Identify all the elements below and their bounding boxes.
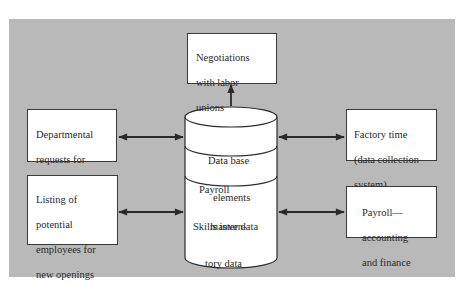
node-text-line: new openings bbox=[36, 269, 111, 281]
db-section-skills-wage: Skills inven- tory data Wage and salary … bbox=[193, 197, 262, 286]
node-factory-time: Factory time (data collection system) bbox=[346, 109, 437, 161]
node-text-line: requests for bbox=[36, 154, 110, 166]
node-text-line: potential bbox=[36, 219, 111, 231]
node-text-line: unions bbox=[196, 102, 270, 114]
db-text-line: tory data bbox=[193, 258, 262, 270]
node-text-line: Departmental bbox=[36, 129, 110, 141]
node-text-line: Factory time bbox=[354, 129, 430, 141]
node-text-line: Negotiations bbox=[196, 52, 270, 64]
node-text-line: employees for bbox=[36, 244, 111, 256]
node-text-line: and finance bbox=[362, 257, 430, 269]
node-departmental-requests: Departmental requests for new employees bbox=[27, 109, 117, 162]
db-text-line: Skills inven- bbox=[193, 221, 262, 233]
node-payroll-accounting: Payroll— accounting and finance bbox=[346, 186, 437, 238]
node-labor-negotiations: Negotiations with labor unions bbox=[187, 33, 277, 84]
node-text-line: Payroll— bbox=[362, 207, 430, 219]
node-text-line: Listing of bbox=[36, 194, 111, 206]
node-text-line: accounting bbox=[362, 232, 430, 244]
node-internal-listing: Listing of potential employees for new o… bbox=[27, 175, 118, 245]
node-text-line: (data collection bbox=[354, 154, 430, 166]
db-text-line: Payroll bbox=[199, 184, 258, 196]
node-text-line: with labor bbox=[196, 77, 270, 89]
